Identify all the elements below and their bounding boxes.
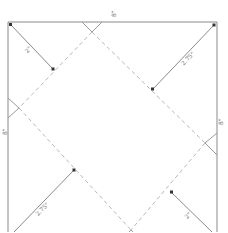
arrow-bottom-right: [170, 191, 212, 233]
edge-label-top: 8": [110, 10, 117, 17]
vertex-notch-top: [82, 22, 102, 32]
arrow-top-left: [9, 23, 55, 71]
arrow-label-top-right: 2.75": [179, 50, 196, 67]
edge-label-right: 8": [217, 118, 224, 125]
arrow-bottom-left: [14, 169, 76, 233]
vertex-notch-bottom: [121, 230, 141, 232]
folding-diagram: 8" 8" 8" 2" 2.75" 2.75" 2": [0, 0, 228, 232]
arrow-label-bottom-left: 2.75": [34, 201, 51, 218]
edge-label-left: 8": [1, 128, 8, 135]
vertex-notch-left: [8, 98, 19, 118]
vertex-notch-right: [205, 133, 217, 155]
fold-diamond: [19, 32, 205, 230]
outer-frame: [8, 22, 217, 232]
